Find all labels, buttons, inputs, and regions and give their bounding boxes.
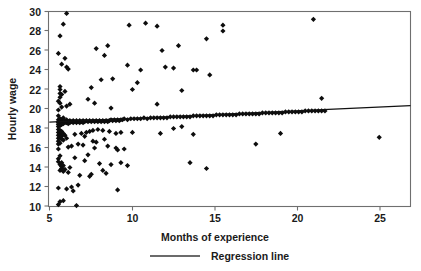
scatter-point — [155, 24, 160, 29]
x-tick-labels: 5 10 15 20 25 — [47, 212, 386, 224]
regression-line — [49, 106, 410, 123]
scatter-point — [130, 87, 135, 92]
x-axis-title: Months of experience — [161, 231, 269, 243]
plot-frame — [49, 12, 411, 207]
scatter-point — [99, 77, 104, 82]
y-axis-ticks — [45, 12, 49, 207]
scatter-point — [105, 43, 110, 48]
scatter-point — [163, 64, 168, 69]
y-tick-label: 28 — [29, 25, 41, 37]
scatter-point — [207, 72, 212, 77]
scatter-point — [220, 23, 225, 28]
scatter-point — [56, 51, 61, 56]
chart-canvas: 30 28 26 24 22 20 18 16 14 12 10 5 10 15… — [0, 0, 421, 271]
y-tick-label: 24 — [29, 64, 41, 76]
scatter-point — [107, 129, 112, 134]
scatter-point — [171, 126, 176, 131]
scatter-point — [80, 142, 85, 147]
y-tick-label: 18 — [29, 123, 41, 135]
scatter-point — [311, 17, 316, 22]
scatter-point — [158, 131, 163, 136]
scatter-point — [125, 163, 130, 168]
scatter-point — [179, 124, 184, 129]
scatter-point — [57, 33, 62, 38]
scatter-point — [194, 67, 199, 72]
scatter-point — [74, 203, 79, 208]
x-tick-label: 25 — [374, 212, 386, 224]
x-tick-label: 20 — [292, 212, 304, 224]
scatter-point — [94, 46, 99, 51]
scatter-point — [76, 182, 81, 187]
y-tick-label: 22 — [29, 84, 41, 96]
scatter-point — [62, 56, 67, 61]
y-tick-labels: 30 28 26 24 22 20 18 16 14 12 10 — [29, 6, 41, 213]
scatter-point — [77, 173, 82, 178]
regression-line-layer — [49, 106, 410, 123]
scatter-point — [108, 162, 113, 167]
scatter-point — [135, 80, 140, 85]
scatter-point — [92, 145, 97, 150]
scatter-point — [118, 160, 123, 165]
scatter-point — [179, 88, 184, 93]
y-tick-label: 26 — [29, 45, 41, 57]
scatter-point — [319, 96, 324, 101]
scatter-chart-figure: 30 28 26 24 22 20 18 16 14 12 10 5 10 15… — [0, 0, 421, 271]
scatter-point — [377, 135, 382, 140]
scatter-point — [176, 43, 181, 48]
scatter-point — [97, 161, 102, 166]
scatter-point — [118, 130, 123, 135]
scatter-point — [155, 102, 160, 107]
y-tick-label: 12 — [29, 181, 41, 193]
y-tick-label: 14 — [29, 162, 41, 174]
scatter-point — [171, 65, 176, 70]
scatter-point — [82, 158, 87, 163]
scatter-point — [102, 137, 107, 142]
scatter-point — [113, 131, 118, 136]
scatter-point — [72, 155, 77, 160]
x-tick-label: 5 — [47, 212, 53, 224]
scatter-point — [125, 63, 130, 68]
scatter-point — [89, 85, 94, 90]
x-tick-label: 10 — [127, 212, 139, 224]
x-axis-ticks — [50, 207, 381, 211]
y-tick-label: 30 — [29, 6, 41, 18]
scatter-point — [67, 165, 72, 170]
scatter-point — [191, 132, 196, 137]
scatter-point — [61, 22, 66, 27]
scatter-point — [138, 67, 143, 72]
scatter-point — [102, 53, 107, 58]
y-tick-label: 16 — [29, 142, 41, 154]
scatter-point — [220, 28, 225, 33]
scatter-point — [187, 160, 192, 165]
scatter-point — [110, 76, 115, 81]
scatter-point — [159, 48, 164, 53]
scatter-point — [64, 186, 69, 191]
y-tick-label: 20 — [29, 103, 41, 115]
legend-label-regression-line: Regression line — [211, 250, 289, 262]
scatter-point — [59, 62, 64, 67]
y-axis-title: Hourly wage — [6, 78, 18, 141]
scatter-point — [72, 132, 77, 137]
y-tick-label: 10 — [29, 201, 41, 213]
scatter-point — [100, 128, 105, 133]
scatter-point — [108, 105, 113, 110]
scatter-point — [56, 185, 61, 190]
scatter-point — [122, 146, 127, 151]
scatter-point — [115, 187, 120, 192]
scatter-point — [95, 127, 100, 132]
scatter-point — [85, 152, 90, 157]
scatter-point — [76, 142, 81, 147]
scatter-point — [204, 36, 209, 41]
scatter-point — [85, 97, 90, 102]
scatter-point — [127, 23, 132, 28]
scatter-point — [278, 131, 283, 136]
scatter-point — [56, 146, 61, 151]
scatter-point — [130, 130, 135, 135]
scatter-point — [204, 166, 209, 171]
chart-legend: Regression line — [150, 250, 289, 262]
scatter-point — [92, 101, 97, 106]
scatter-point — [143, 21, 148, 26]
scatter-point — [253, 142, 258, 147]
x-tick-label: 15 — [209, 212, 221, 224]
scatter-point — [105, 143, 110, 148]
